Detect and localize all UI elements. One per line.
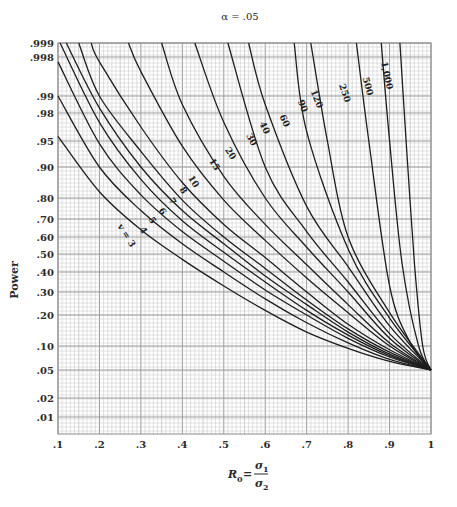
curve-labels: v = 345678101520304060901202505001,000 <box>115 61 395 249</box>
curve-label: 40 <box>258 120 272 136</box>
curve-label: 8 <box>178 185 190 196</box>
y-tick-label: .50 <box>37 249 54 260</box>
x-tick-label: .4 <box>177 439 187 450</box>
x-tick-label: .8 <box>343 439 353 450</box>
y-tick-label: .999 <box>30 38 54 49</box>
y-tick-label: .20 <box>37 310 54 321</box>
x-tick-label: .5 <box>219 439 229 450</box>
y-tick-label: .60 <box>37 232 54 243</box>
curve-label: 250 <box>337 83 352 104</box>
x-tick-label: .9 <box>384 439 394 450</box>
x-tick-label: .2 <box>94 439 104 450</box>
curve-label: 4 <box>138 225 150 236</box>
power-curve <box>400 43 431 370</box>
y-tick-label: .99 <box>37 91 54 102</box>
x-label-eq: = <box>243 468 252 481</box>
curve-label: 1,000 <box>378 61 395 91</box>
y-tick-label: .05 <box>37 365 54 376</box>
y-tick-label: .998 <box>30 52 54 63</box>
power-curve <box>228 43 431 370</box>
power-chart: v = 345678101520304060901202505001,000 .… <box>0 0 457 507</box>
y-axis-ticks: .999.998.99.98.95.90.80.70.60.50.40.30.2… <box>30 38 54 423</box>
x-tick-label: .1 <box>53 439 63 450</box>
y-tick-label: .80 <box>37 193 54 204</box>
y-axis-label: Power <box>8 261 21 299</box>
y-tick-label: .01 <box>37 412 54 423</box>
y-tick-label: .90 <box>37 162 54 173</box>
y-tick-label: .95 <box>37 136 54 147</box>
y-tick-label: .10 <box>37 341 54 352</box>
y-tick-label: .30 <box>37 287 54 298</box>
x-tick-label: .6 <box>260 439 270 450</box>
chart-title: α = .05 <box>221 11 258 22</box>
x-tick-label: 1 <box>428 439 435 450</box>
x-label-r: R <box>227 468 237 481</box>
y-tick-label: .40 <box>37 267 54 278</box>
x-tick-label: .7 <box>301 439 311 450</box>
y-tick-label: .98 <box>37 108 54 119</box>
x-axis-label: R 0 = σ 1 σ 2 <box>227 459 269 492</box>
x-label-num-sub: 1 <box>263 464 269 474</box>
curve-label: 60 <box>278 113 292 129</box>
y-tick-label: .70 <box>37 214 54 225</box>
curve-label: 90 <box>296 98 310 113</box>
x-label-den-sub: 2 <box>263 482 269 492</box>
y-tick-label: .02 <box>37 393 54 404</box>
power-curve <box>162 43 431 370</box>
x-tick-label: .3 <box>136 439 146 450</box>
x-axis-ticks: .1.2.3.4.5.6.7.8.91 <box>53 439 435 450</box>
